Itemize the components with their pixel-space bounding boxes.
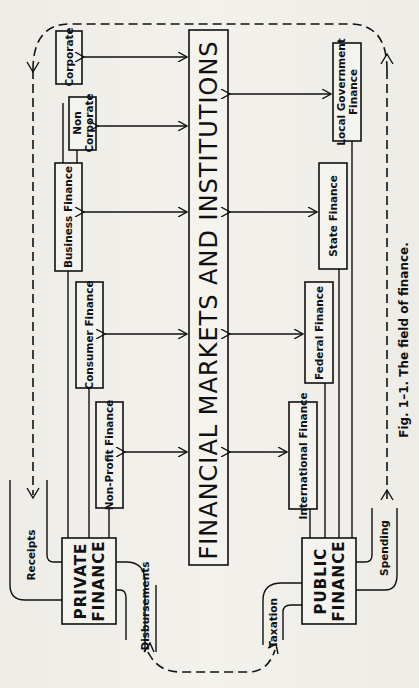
non-corporate-label-line1: Non (71, 111, 83, 134)
bottom-flow-dashed-line (148, 650, 275, 672)
disbursements-label: Disbursements (139, 562, 151, 651)
international-finance-label: International Finance (297, 392, 309, 519)
corporate-label: Corporate (63, 27, 75, 86)
taxation-channel-inner (283, 605, 302, 640)
federal-finance-label: Federal Finance (313, 286, 325, 380)
public-finance-title-line2: FINANCE (330, 541, 348, 622)
spending-channel-inner (356, 508, 372, 562)
taxation-label: Taxation (267, 598, 279, 648)
receipts-channel-outer (10, 585, 62, 600)
business-finance-label: Business Finance (62, 166, 74, 268)
consumer-finance-label: Consumer Finance (83, 280, 95, 389)
figure-caption: Fig. 1–1. The field of finance. (397, 242, 411, 438)
private-finance-title-line1: PRIVATE (72, 543, 90, 620)
non-profit-finance-label: Non-Profit Finance (103, 400, 115, 511)
field-of-finance-diagram: FINANCIAL MARKETS AND INSTITUTIONS Corpo… (0, 0, 419, 688)
receipts-channel-inner (47, 480, 62, 562)
disbursements-channel-inner (116, 590, 126, 640)
state-finance-label: State Finance (327, 175, 339, 257)
non-corporate-label-line2: Corporate (83, 93, 95, 152)
spending-label: Spending (378, 520, 390, 576)
local-government-label-line1: Local Government (335, 38, 347, 145)
center-label: FINANCIAL MARKETS AND INSTITUTIONS (195, 40, 223, 559)
private-finance-title-line2: FINANCE (90, 541, 108, 622)
receipts-label: Receipts (25, 530, 37, 581)
public-finance-title-line1: PUBLIC (312, 548, 330, 615)
local-government-label-line2: Finance (347, 69, 359, 115)
spending-channel-outer (356, 508, 397, 590)
